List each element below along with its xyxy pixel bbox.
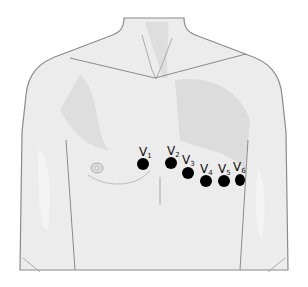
electrode-v6	[235, 174, 245, 186]
label-v1: V1	[139, 146, 152, 160]
label-v5: V5	[218, 163, 231, 177]
label-v4: V4	[200, 163, 213, 177]
ecg-lead-diagram: V1 V2 V3 V4 V5 V6	[0, 0, 308, 287]
torso-illustration	[0, 0, 308, 287]
label-v6: V6	[233, 161, 246, 175]
nipple	[91, 163, 103, 173]
label-v3: V3	[182, 154, 195, 168]
label-v2: V2	[167, 145, 180, 159]
electrode-v3	[182, 167, 194, 179]
